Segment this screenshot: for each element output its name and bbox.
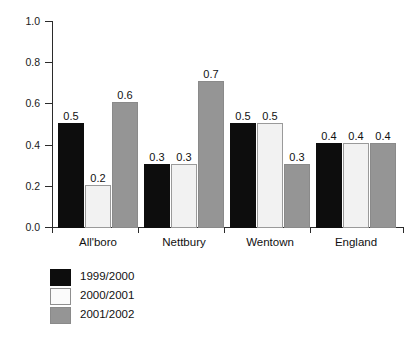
x-axis-tick xyxy=(138,228,139,233)
bar-value-nettbury-2000-2001: 0.3 xyxy=(167,152,201,163)
x-axis-tick xyxy=(403,228,404,233)
y-axis-tick xyxy=(45,186,53,187)
bar-value-allboro-1999-2000: 0.5 xyxy=(54,111,88,122)
bar-value-allboro-2001-2002: 0.6 xyxy=(108,90,142,101)
bar-nettbury-2000-2001 xyxy=(171,164,197,228)
y-axis-label-4: 0.4 xyxy=(12,140,40,151)
x-axis-tick xyxy=(310,228,311,233)
legend-swatch-icon-2000-2001 xyxy=(50,288,71,305)
y-axis-tick xyxy=(45,103,53,104)
bar-wentown-2000-2001 xyxy=(257,123,283,228)
y-axis-label-3: 0.6 xyxy=(12,98,40,109)
bar-england-2001-2002 xyxy=(370,143,396,228)
legend-label-1999-2000: 1999/2000 xyxy=(80,270,134,283)
bar-group-nettbury: 0.3 0.3 0.7 xyxy=(144,21,224,228)
bar-group-allboro: 0.5 0.2 0.6 xyxy=(58,21,138,228)
y-axis-label-1: 1.0 xyxy=(12,16,40,27)
x-axis-label-england: England xyxy=(301,236,411,249)
bar-value-england-2001-2002: 0.4 xyxy=(366,131,400,142)
legend-item-2000-2001: 2000/2001 xyxy=(50,287,270,304)
legend-swatch-icon-2001-2002 xyxy=(50,307,71,324)
bar-england-1999-2000 xyxy=(316,143,342,228)
y-axis-tick xyxy=(45,145,53,146)
y-axis-label-6: 0.0 xyxy=(12,222,40,233)
bar-value-allboro-2000-2001: 0.2 xyxy=(81,173,115,184)
bar-chart: 1.0 0.8 0.6 0.4 0.2 0.0 0.5 0.2 0.6 All'… xyxy=(0,0,411,343)
bar-allboro-2000-2001 xyxy=(85,185,111,228)
y-axis-label-5: 0.2 xyxy=(12,181,40,192)
bar-group-wentown: 0.5 0.5 0.3 xyxy=(230,21,310,228)
legend-swatch-icon-1999-2000 xyxy=(50,269,71,286)
bar-group-england: 0.4 0.4 0.4 xyxy=(316,21,396,228)
y-axis-line xyxy=(52,21,53,228)
bar-allboro-2001-2002 xyxy=(112,102,138,228)
y-axis-label-2: 0.8 xyxy=(12,57,40,68)
legend-label-2001-2002: 2001/2002 xyxy=(80,308,134,321)
legend-item-2001-2002: 2001/2002 xyxy=(50,306,270,323)
bar-england-2000-2001 xyxy=(343,143,369,228)
bar-value-wentown-2001-2002: 0.3 xyxy=(280,152,314,163)
chart-legend: 1999/2000 2000/2001 2001/2002 xyxy=(50,268,270,325)
bar-wentown-1999-2000 xyxy=(230,123,256,228)
y-axis-tick xyxy=(45,62,53,63)
bar-nettbury-2001-2002 xyxy=(198,81,224,228)
x-axis-tick xyxy=(52,228,53,233)
x-axis-tick xyxy=(224,228,225,233)
bar-wentown-2001-2002 xyxy=(284,164,310,228)
bar-value-nettbury-2001-2002: 0.7 xyxy=(194,69,228,80)
legend-item-1999-2000: 1999/2000 xyxy=(50,268,270,285)
bar-nettbury-1999-2000 xyxy=(144,164,170,228)
y-axis-tick xyxy=(45,21,53,22)
legend-label-2000-2001: 2000/2001 xyxy=(80,289,134,302)
bar-value-wentown-2000-2001: 0.5 xyxy=(253,111,287,122)
